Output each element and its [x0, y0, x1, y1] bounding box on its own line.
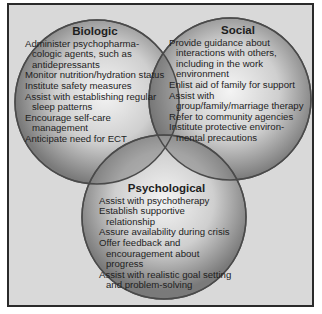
biologic-item: Institute safety measures [25, 81, 165, 92]
psychological-section: Psychological Assist with psychotherapy … [99, 183, 234, 291]
social-item: Assist with group/family/marriage therap… [169, 91, 307, 112]
biologic-item: Administer psychopharma-cologic agents, … [25, 39, 165, 71]
psychological-item: Establish supportive relationship [99, 206, 234, 227]
social-item: Enlist aid of family for support [169, 80, 307, 91]
social-item: Provide guidance about interactions with… [169, 38, 307, 80]
psychological-item: Assist with realistic goal setting and p… [99, 270, 234, 291]
biologic-item: Anticipate need for ECT [25, 134, 165, 145]
biologic-section: Biologic Administer psychopharma-cologic… [25, 26, 165, 145]
social-title: Social [169, 25, 307, 36]
biologic-item: Encourage self-care management [25, 113, 165, 134]
psychological-title: Psychological [99, 183, 234, 194]
psychological-item: Offer feedback and encouragement about p… [99, 238, 234, 270]
social-item: Institute protective environ-mental prec… [169, 122, 307, 143]
social-section: Social Provide guidance about interactio… [169, 25, 307, 144]
biologic-item: Assist with establishing regular sleep p… [25, 92, 165, 113]
biologic-title: Biologic [25, 26, 165, 37]
